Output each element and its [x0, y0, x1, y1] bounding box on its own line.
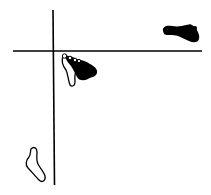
filled-footprint-top-right — [163, 24, 199, 42]
crossroads-diagram — [0, 0, 211, 195]
half-filled-footprint-center — [62, 54, 97, 86]
vertical-line — [53, 10, 55, 185]
outline-footprint-bottom-left — [26, 148, 45, 182]
